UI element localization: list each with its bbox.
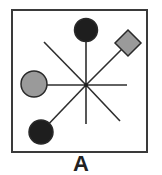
star-glyph-diagram <box>0 0 162 175</box>
figure-label: A <box>0 153 162 175</box>
center-hub <box>84 83 88 87</box>
left-gray-circle-icon <box>21 71 47 97</box>
bottom-left-black-circle-icon <box>29 120 53 144</box>
top-black-circle-icon <box>75 19 98 42</box>
